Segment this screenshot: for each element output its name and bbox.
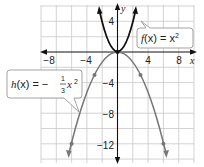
x-tick-8: 8 <box>176 55 182 66</box>
x-tick-m8: −8 <box>43 55 55 66</box>
h-point <box>161 142 165 146</box>
y-tick-m8: −8 <box>103 109 115 120</box>
x-tick-4: 4 <box>145 55 151 66</box>
f-label: f(x) = x2 <box>141 32 179 44</box>
x-axis-label: x <box>189 55 195 66</box>
x-tick-m4: −4 <box>80 55 92 66</box>
h-label: h(x) = − <box>11 78 48 90</box>
y-tick-4: 4 <box>108 16 114 27</box>
y-axis-label: y <box>120 3 126 14</box>
h-point <box>70 142 74 146</box>
parabola-graph: −8 −4 4 8 x y 4 −4 −8 −12 f(x) = x2 h(x)… <box>0 0 204 167</box>
y-tick-m12: −12 <box>97 140 114 151</box>
h-frac-num: 1 <box>61 75 65 82</box>
f-callout: f(x) = x2 <box>137 21 193 48</box>
h-frac-den: 3 <box>61 87 65 94</box>
vertex-point <box>116 50 120 54</box>
h-point <box>139 73 143 77</box>
h-callout: h(x) = − 1 3 x 2 <box>7 70 82 112</box>
h-point <box>93 73 97 77</box>
h-exp: 2 <box>74 78 78 85</box>
h-var: x <box>66 78 72 90</box>
y-tick-m4: −4 <box>103 78 115 89</box>
